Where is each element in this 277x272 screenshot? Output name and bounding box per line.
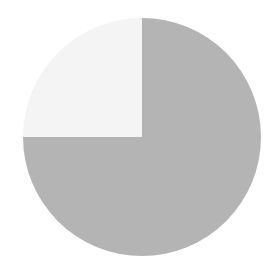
pie-slice-2: [23, 18, 142, 137]
pie-chart: [0, 0, 277, 272]
